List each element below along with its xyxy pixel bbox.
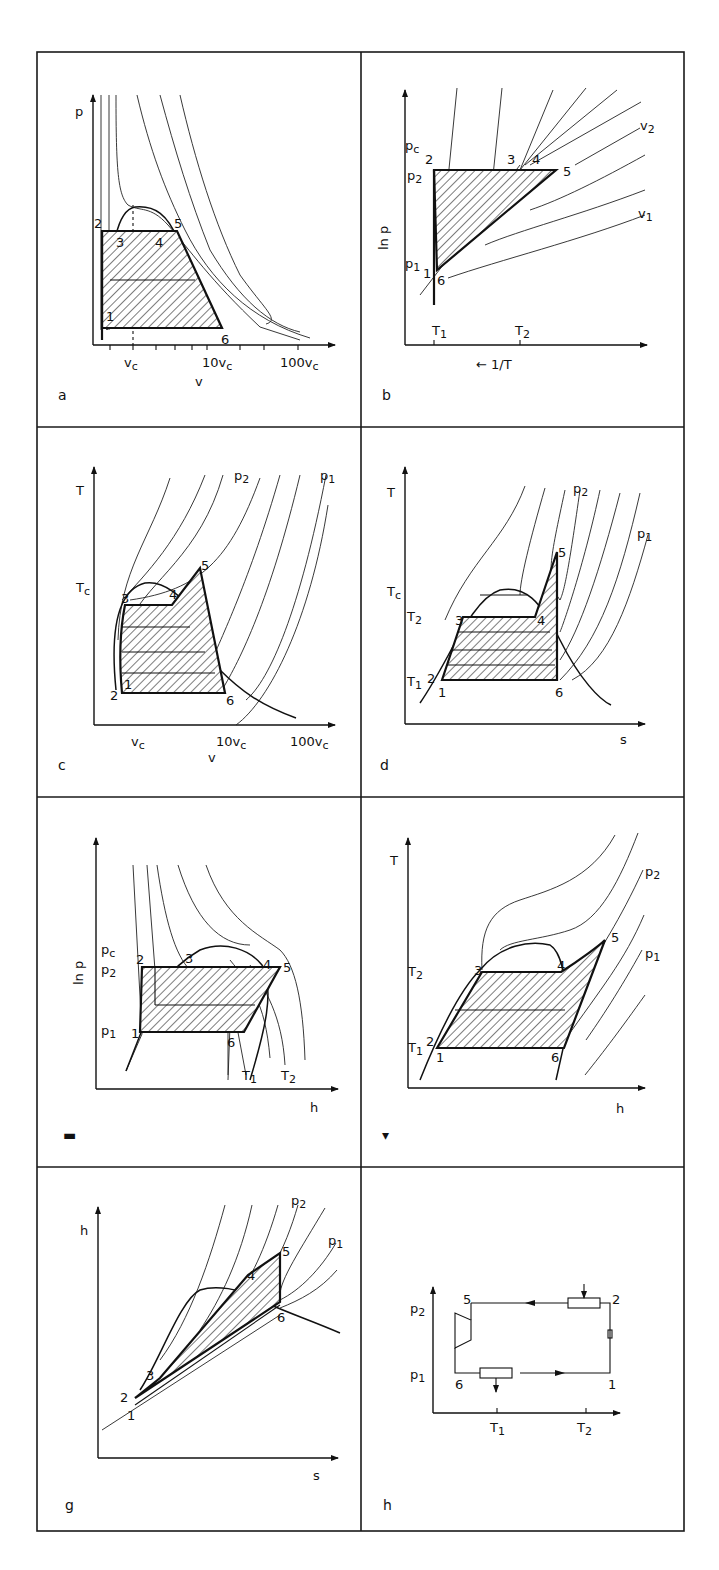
panel-e-lnp-h-diagram: ln p h pc p2 p1 T1 T2 2 3 4 5 1 6 ▬ [63, 838, 338, 1143]
point-3: 3 [121, 591, 129, 606]
curve-label-p2: p2 [573, 481, 588, 499]
cycle-area [434, 170, 556, 270]
tick-t1: T1 [489, 1420, 505, 1438]
tick-100vc: 100vc [290, 734, 329, 752]
point-5: 5 [201, 558, 209, 573]
tick-vc: vc [124, 355, 138, 373]
point-4: 4 [169, 587, 177, 602]
y-axis-label: ln p [376, 226, 391, 250]
curve-label-v2: v2 [640, 118, 655, 136]
y-axis-label: p [75, 104, 83, 119]
point-2: 2 [425, 152, 433, 167]
tick-t2: T2 [576, 1420, 592, 1438]
panel-h-cycle-schematic: p2 p1 T1 T2 5 2 6 1 h [383, 1284, 620, 1513]
point-2: 2 [427, 671, 435, 686]
panel-label-c: c [58, 757, 66, 773]
point-1: 1 [436, 1050, 444, 1065]
arrow-left-icon [525, 1300, 535, 1306]
point-1: 1 [106, 309, 114, 324]
point-1: 1 [131, 1026, 139, 1041]
tick-10vc: 10vc [202, 355, 232, 373]
point-4: 4 [263, 957, 271, 972]
point-4: 4 [247, 1268, 255, 1283]
x-axis-label: s [313, 1468, 320, 1483]
panel-label-f: ▾ [382, 1127, 389, 1143]
heat-exchanger-high [568, 1298, 600, 1308]
point-2: 2 [110, 688, 118, 703]
point-1: 1 [127, 1408, 135, 1423]
tick-pc: pc [101, 942, 115, 960]
tick-tc: Tc [75, 580, 90, 598]
tick-tc: Tc [386, 584, 401, 602]
curve-label-p1: p1 [637, 526, 652, 544]
point-3: 3 [507, 152, 515, 167]
x-axis-label: h [616, 1101, 624, 1116]
point-6: 6 [221, 332, 229, 347]
point-6: 6 [555, 685, 563, 700]
panel-label-a: a [58, 387, 67, 403]
point-5: 5 [174, 216, 182, 231]
curve-label-p1: p1 [320, 468, 335, 486]
tick-p2: p2 [407, 168, 422, 186]
point-6: 6 [437, 273, 445, 288]
panel-label-g: g [65, 1497, 74, 1513]
tick-t2: T2 [514, 323, 530, 341]
point-2: 2 [136, 952, 144, 967]
panel-b-lnp-invT-diagram: ln p ← 1/T pc p2 p1 T1 T2 v2 v1 2 3 4 5 … [376, 88, 655, 403]
cycle-area [135, 1253, 280, 1398]
point-5: 5 [463, 1292, 471, 1307]
curve-label-p2: p2 [234, 468, 249, 486]
point-5: 5 [611, 930, 619, 945]
point-6: 6 [277, 1310, 285, 1325]
panel-label-e: ▬ [63, 1127, 76, 1143]
curve-label-t1: T1 [241, 1068, 257, 1086]
tick-t2: T2 [407, 964, 423, 982]
panel-a-pv-diagram: p v vc 10vc 100vc 2 3 4 5 1 [58, 95, 335, 403]
x-axis-label: v [195, 374, 203, 389]
point-6: 6 [551, 1050, 559, 1065]
x-axis-label: v [208, 750, 216, 765]
panel-label-h: h [383, 1497, 392, 1513]
tick-vc: vc [131, 734, 145, 752]
point-4: 4 [155, 235, 163, 250]
curve-label-t2: T2 [280, 1068, 296, 1086]
arrow-right-icon [555, 1370, 565, 1376]
y-axis-label: T [386, 485, 395, 500]
curve-label-p2: p2 [291, 1193, 306, 1211]
panel-d-Ts-diagram: T s Tc T2 T1 p2 p1 3 4 5 2 1 6 d [380, 467, 652, 773]
panel-label-d: d [380, 757, 389, 773]
tick-100vc: 100vc [280, 355, 319, 373]
point-2: 2 [120, 1390, 128, 1405]
tick-t1: T1 [407, 1040, 423, 1058]
panel-label-b: b [382, 387, 391, 403]
tick-p1: p1 [101, 1023, 116, 1041]
point-4: 4 [537, 613, 545, 628]
line-2-1-6 [520, 1303, 610, 1373]
tick-pc: pc [405, 138, 419, 156]
point-3: 3 [185, 951, 193, 966]
curve-label-v1: v1 [638, 206, 653, 224]
turbine-icon [455, 1313, 471, 1348]
point-5: 5 [283, 960, 291, 975]
point-3: 3 [455, 613, 463, 628]
point-2: 2 [94, 216, 102, 231]
y-axis-label: ln p [71, 961, 86, 985]
line-6 [455, 1348, 480, 1373]
tick-p1: p1 [410, 1367, 425, 1385]
tick-10vc: 10vc [216, 734, 246, 752]
point-3: 3 [146, 1368, 154, 1383]
point-2: 2 [426, 1034, 434, 1049]
x-axis-label: s [620, 732, 627, 747]
tick-p2: p2 [410, 1301, 425, 1319]
x-axis-label: h [310, 1100, 318, 1115]
figure-canvas: p v vc 10vc 100vc 2 3 4 5 1 [0, 0, 719, 1570]
point-1: 1 [124, 677, 132, 692]
x-ticks [110, 345, 298, 350]
point-3: 3 [116, 235, 124, 250]
point-1: 1 [438, 685, 446, 700]
y-axis-label: h [80, 1223, 88, 1238]
x-axis-label: ← 1/T [476, 357, 512, 372]
panel-c-Tv-diagram: T v Tc vc 10vc 100vc p2 p1 3 4 5 1 2 6 c [58, 467, 335, 773]
tick-t1: T1 [431, 323, 447, 341]
cycle-area [140, 967, 280, 1032]
